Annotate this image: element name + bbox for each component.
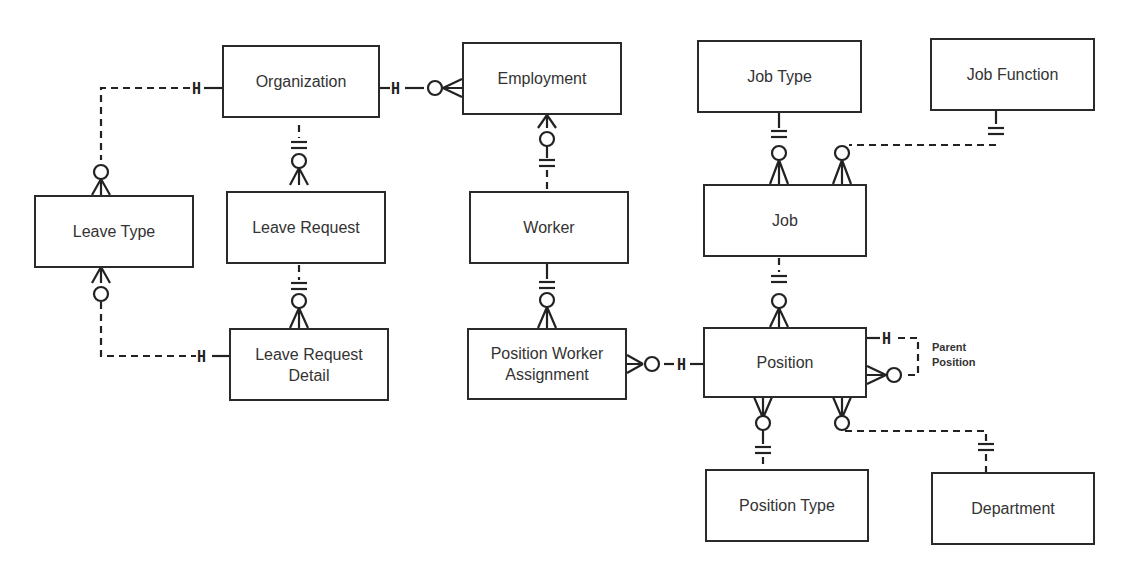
entity-label: Leave Type — [67, 221, 161, 242]
entity-organization[interactable]: Organization — [222, 45, 380, 118]
entity-position-type[interactable]: Position Type — [705, 469, 869, 542]
rel-position-parent-position: H — [867, 330, 918, 384]
rel-worker-position-worker-assignment — [538, 263, 556, 328]
entity-label: Leave Request Detail — [243, 344, 375, 386]
entity-leave-request[interactable]: Leave Request — [226, 191, 386, 264]
svg-text:H: H — [677, 356, 686, 374]
entity-leave-type[interactable]: Leave Type — [34, 195, 194, 268]
entity-label: Job Function — [961, 64, 1065, 85]
rel-organization-leave-type: H — [92, 80, 222, 195]
rel-organization-employment: H — [379, 79, 462, 98]
rel-leave-request-detail — [290, 265, 308, 328]
entity-label: Department — [965, 498, 1061, 519]
rel-job-function-job — [833, 110, 1004, 184]
entity-department[interactable]: Department — [931, 472, 1095, 545]
entity-job-type[interactable]: Job Type — [697, 40, 862, 113]
svg-text:H: H — [391, 80, 400, 98]
entity-label: Leave Request — [246, 217, 366, 238]
entity-job[interactable]: Job — [703, 184, 867, 257]
svg-text:H: H — [882, 330, 891, 348]
er-diagram-canvas: H H — [0, 0, 1128, 581]
svg-text:H: H — [197, 348, 206, 366]
entity-label: Worker — [517, 217, 580, 238]
entity-label: Organization — [250, 71, 353, 92]
svg-text:H: H — [192, 80, 201, 98]
rel-worker-employment — [538, 115, 556, 191]
rel-position-type-position — [754, 397, 772, 469]
rel-leave-type-leave-request-detail: H — [92, 267, 229, 366]
entity-position-worker-assignment[interactable]: Position Worker Assignment — [467, 328, 627, 400]
rel-job-position — [770, 258, 788, 327]
rel-job-type-job — [770, 112, 788, 184]
entity-label: Job — [766, 210, 804, 231]
entity-label: Position Worker Assignment — [471, 343, 623, 385]
parent-position-text: Parent Position — [932, 341, 975, 368]
entity-label: Job Type — [741, 66, 818, 87]
rel-organization-leave-request — [290, 125, 308, 185]
entity-position[interactable]: Position — [703, 327, 867, 398]
rel-position-position-worker-assignment: H — [627, 355, 703, 374]
entity-label: Employment — [492, 68, 593, 89]
rel-department-position — [833, 397, 994, 472]
entity-label: Position — [751, 352, 820, 373]
parent-position-label: Parent Position — [932, 340, 992, 370]
entity-leave-request-detail[interactable]: Leave Request Detail — [229, 328, 389, 401]
entity-employment[interactable]: Employment — [462, 42, 622, 115]
entity-label: Position Type — [733, 495, 841, 516]
entity-worker[interactable]: Worker — [469, 191, 629, 264]
entity-job-function[interactable]: Job Function — [930, 38, 1095, 111]
